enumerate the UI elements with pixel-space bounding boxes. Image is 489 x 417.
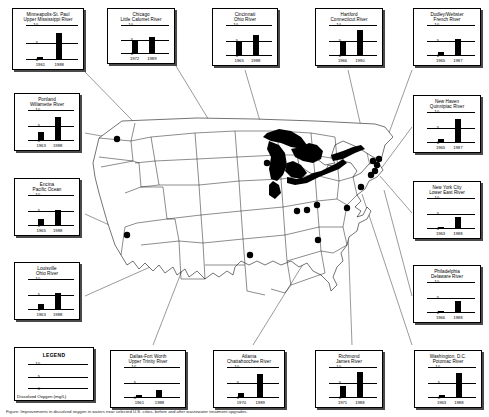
bar — [55, 210, 61, 226]
xtick-label: 1988 — [149, 401, 169, 406]
panel-portland[interactable]: Portland Willamette River 10 5 0 1963 19… — [14, 93, 80, 151]
bar — [438, 311, 444, 313]
xtick-label: 1988 — [449, 401, 469, 406]
bar — [149, 37, 155, 54]
panel-title-atlanta: Atlanta Chattahoochee River — [214, 351, 284, 365]
bar — [357, 372, 363, 398]
dot-richmond — [344, 205, 350, 211]
legend-axis-label: Dissolved Oxygen (mg/L) — [17, 394, 92, 399]
xtick-label: 1988 — [48, 144, 68, 149]
panel-new-haven[interactable]: New Haven Quinnipiac River 10 5 0 1965 1… — [413, 95, 481, 153]
panel-title-dudley-webster: Dudley/Webster French River — [414, 9, 480, 23]
xtick-label: 1988 — [48, 229, 68, 234]
bar — [38, 304, 44, 311]
dot-cincinnati — [314, 202, 320, 208]
bar — [340, 41, 346, 57]
bar — [37, 57, 43, 61]
dot-atlanta — [315, 237, 321, 243]
bar — [132, 41, 138, 54]
dot-minneapolis — [264, 160, 270, 166]
axis-0 — [28, 388, 88, 389]
bar — [438, 139, 444, 143]
dot-portland — [114, 136, 120, 142]
xtick-label: 1988 — [448, 232, 468, 237]
bar — [455, 119, 461, 143]
panel-dudley-webster[interactable]: Dudley/Webster French River 10 5 0 1965 … — [413, 8, 481, 66]
xtick-label: 1989 — [250, 401, 270, 406]
xtick-label: 1988 — [48, 313, 68, 318]
panel-encina[interactable]: Encina Pacific Ocean 10 5 0 1965 1988 — [14, 178, 80, 236]
us-map — [85, 115, 405, 345]
panel-richmond[interactable]: Richmond James River 10 5 0 1971 1988 — [315, 350, 383, 408]
bar — [456, 373, 462, 398]
bar — [55, 117, 61, 141]
dot-hartford — [370, 158, 376, 164]
panel-title-portland: Portland Willamette River — [15, 94, 79, 108]
panel-title-chicago: Chicago Little Calumet River — [108, 9, 174, 23]
panel-philadelphia[interactable]: Philadelphia Delaware River 10 5 0 1966 … — [413, 265, 481, 323]
panel-title-new-haven: New Haven Quinnipiac River — [414, 96, 480, 110]
bar — [357, 30, 363, 56]
xtick-label: 1961 — [129, 401, 149, 406]
dot-nyc — [372, 168, 378, 174]
xtick-label: 1987 — [448, 59, 468, 64]
legend-panel: LEGEND 10 5 0 Dissolved Oxygen (mg/L) — [14, 347, 94, 401]
bar — [38, 219, 44, 226]
dot-dallas — [247, 252, 253, 258]
xtick-label: 1990 — [350, 59, 370, 64]
bar — [136, 395, 142, 398]
dot-louisville — [304, 207, 310, 213]
panel-minneapolis[interactable]: Minneapolis-St. Paul Upper Mississippi R… — [12, 8, 84, 70]
bar — [438, 227, 444, 229]
panel-atlanta[interactable]: Atlanta Chattahoochee River 10 5 0 1970 … — [213, 350, 285, 408]
xtick-label: 1970 — [231, 401, 251, 406]
panel-cincinnati[interactable]: Cincinnati Ohio River 10 5 0 1965 1988 — [212, 8, 278, 66]
bar — [455, 301, 461, 313]
bar — [455, 217, 461, 229]
panel-washington-dc[interactable]: Washington, D.C. Potomac River 10 5 0 19… — [414, 350, 482, 408]
gridline-10 — [28, 364, 88, 365]
panel-title-hartford: Hartford Connecticut River — [316, 9, 382, 23]
bar — [55, 293, 61, 310]
xtick-label: 1987 — [448, 146, 468, 151]
panel-title-encina: Encina Pacific Ocean — [15, 179, 79, 193]
panel-dallas-fort-worth[interactable]: Dallas-Fort Worth Upper Trinity River 10… — [110, 350, 186, 408]
xtick-label: 1961 — [30, 63, 50, 68]
bar — [156, 390, 162, 398]
xtick-label: 1988 — [448, 316, 468, 321]
bar — [257, 374, 263, 398]
gridline-5 — [28, 377, 88, 378]
panel-hartford[interactable]: Hartford Connecticut River 10 5 0 1966 1… — [315, 8, 383, 66]
dot-washington — [358, 184, 364, 190]
xtick-label: 1988 — [49, 63, 69, 68]
panel-title-philadelphia: Philadelphia Delaware River — [414, 266, 480, 280]
legend-title: LEGEND — [15, 348, 93, 358]
bar — [253, 35, 259, 56]
bar — [455, 39, 461, 56]
xtick-label: 1989 — [142, 57, 162, 62]
panel-title-louisville: Louisville Ohio River — [15, 263, 79, 277]
bar — [38, 132, 44, 141]
panel-title-new-york-city: New York City Lower East River — [414, 182, 480, 196]
bar — [340, 386, 346, 398]
bar — [439, 395, 445, 398]
xtick-label: 1988 — [350, 401, 370, 406]
bar — [438, 52, 444, 56]
panel-title-richmond: Richmond James River — [316, 351, 382, 365]
panel-title-minneapolis: Minneapolis-St. Paul Upper Mississippi R… — [13, 9, 83, 23]
panel-title-cincinnati: Cincinnati Ohio River — [213, 9, 277, 23]
panel-title-washington-dc: Washington, D.C. Potomac River — [415, 351, 481, 365]
xtick-label: 1988 — [246, 59, 266, 64]
panel-new-york-city[interactable]: New York City Lower East River 10 5 0 19… — [413, 181, 481, 239]
bar — [56, 33, 62, 60]
dot-chicago — [294, 208, 300, 214]
panel-chicago[interactable]: Chicago Little Calumet River 10 5 0 1972… — [107, 8, 175, 64]
bar — [236, 41, 242, 56]
panel-louisville[interactable]: Louisville Ohio River 10 5 0 1963 1988 — [14, 262, 80, 320]
dot-encina — [124, 232, 130, 238]
dot-dudley — [376, 156, 382, 162]
bar — [238, 393, 244, 398]
figure-caption: Figure: Improvements in dissolved oxygen… — [6, 409, 484, 415]
panel-title-dallas-fort-worth: Dallas-Fort Worth Upper Trinity River — [111, 351, 185, 365]
